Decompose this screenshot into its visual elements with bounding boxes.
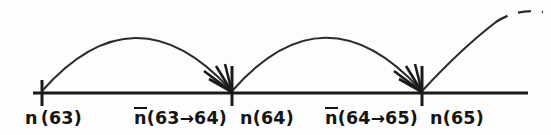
label-nbar-64-65-close: )	[410, 108, 418, 128]
label-nbar-64-65-symbol: n	[325, 110, 338, 128]
label-n-63-open: (	[41, 108, 49, 128]
label-nbar-63-64-close: )	[219, 108, 227, 128]
label-n-64-value: 64	[261, 108, 286, 128]
label-n-63-value: 63	[49, 108, 74, 128]
label-n-65-close: )	[476, 108, 484, 128]
label-nbar-63-64-to: 64	[194, 108, 219, 128]
label-n-64-close: )	[286, 108, 294, 128]
label-nbar-64-to-65: n(64→65)	[325, 110, 418, 128]
label-nbar-63-64-from: 63	[155, 108, 180, 128]
right-arrow-icon: →	[371, 108, 385, 128]
label-n-64-symbol: n	[240, 108, 253, 128]
arc-63-to-64	[42, 38, 230, 91]
arc-65-onward-dashed	[496, 11, 543, 22]
label-n-63-close: )	[74, 108, 82, 128]
label-n-65-symbol: n	[430, 108, 443, 128]
right-arrow-icon: →	[180, 108, 194, 128]
label-n-63-symbol: n	[25, 108, 38, 128]
number-line-figure: n(63) n(63→64) n(64) n(64→65) n(65)	[0, 0, 551, 135]
label-n-63: n(63)	[25, 110, 82, 128]
label-n-65-open: (	[443, 108, 451, 128]
label-n-65: n(65)	[430, 110, 484, 128]
label-nbar-64-65-from: 64	[346, 108, 371, 128]
label-nbar-64-65-open: (	[338, 108, 346, 128]
label-n-64: n(64)	[240, 110, 294, 128]
arc-65-onward-solid	[423, 22, 496, 90]
arc-64-to-65	[233, 38, 420, 90]
label-n-65-value: 65	[451, 108, 476, 128]
label-nbar-63-64-open: (	[147, 108, 155, 128]
label-nbar-63-to-64: n(63→64)	[134, 110, 227, 128]
label-nbar-64-65-to: 65	[385, 108, 410, 128]
label-nbar-63-64-symbol: n	[134, 110, 147, 128]
label-n-64-open: (	[253, 108, 261, 128]
